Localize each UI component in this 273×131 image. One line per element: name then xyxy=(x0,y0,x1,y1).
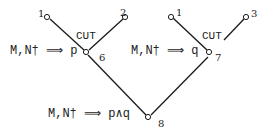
node-label-3: 3 xyxy=(251,9,257,19)
node-7 xyxy=(206,49,211,54)
node-label-2: 2 xyxy=(120,8,126,18)
node-label-6: 6 xyxy=(99,53,105,63)
edge-3-7 xyxy=(224,19,244,40)
edge-6-8 xyxy=(88,55,146,115)
edge-7-8 xyxy=(151,57,208,115)
node-label-7: 7 xyxy=(215,53,221,63)
node-1-left xyxy=(44,14,49,19)
node-label-1-right: 1 xyxy=(176,8,182,18)
sequent-root: M,N† ⟹ p∧q xyxy=(48,108,130,120)
rule-cut-right: CUT xyxy=(202,31,222,42)
node-label-8: 8 xyxy=(158,119,164,129)
node-1-right xyxy=(168,14,173,19)
node-6 xyxy=(83,49,88,54)
proof-tree-edges xyxy=(0,0,273,131)
node-3 xyxy=(243,14,248,19)
node-label-1-left: 1 xyxy=(38,9,44,19)
rule-cut-left: CUT xyxy=(76,31,96,42)
node-8 xyxy=(145,114,150,119)
sequent-left: M,N† ⟹ p xyxy=(10,45,77,57)
sequent-right: M,N† ⟹ q xyxy=(131,45,198,57)
